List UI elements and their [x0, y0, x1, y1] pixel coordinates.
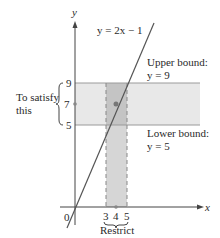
x4-marker — [114, 205, 118, 209]
left-brace-icon — [56, 83, 63, 125]
tick-y9: 9 — [66, 77, 72, 90]
tick-y5: 5 — [66, 119, 72, 132]
tick-x5: 5 — [124, 210, 130, 223]
upper-bound-value: y = 9 — [147, 69, 170, 82]
upper-bound-label: Upper bound: — [147, 56, 208, 69]
restrict-label-2: to this — [100, 237, 127, 238]
y-axis-arrow-icon — [73, 21, 78, 28]
satisfy-label-2: this — [16, 104, 32, 117]
tick-x3: 3 — [103, 210, 109, 223]
horizontal-band — [75, 83, 200, 125]
satisfy-label: To satisfy — [16, 91, 59, 104]
origin-label: 0 — [64, 211, 70, 224]
lower-bound-label: Lower bound: — [147, 127, 209, 140]
highlighted-point — [114, 102, 119, 107]
lower-bound-value: y = 5 — [147, 140, 170, 153]
x-axis-label: x — [205, 201, 210, 214]
tick-x4: 4 — [113, 210, 119, 223]
x-axis-arrow-icon — [197, 205, 204, 210]
equation-label: y = 2x − 1 — [97, 24, 142, 37]
y7-marker — [73, 102, 77, 106]
y-axis-label: y — [72, 6, 77, 19]
restrict-label: Restrict — [100, 224, 134, 237]
tick-y7: 7 — [64, 98, 70, 111]
